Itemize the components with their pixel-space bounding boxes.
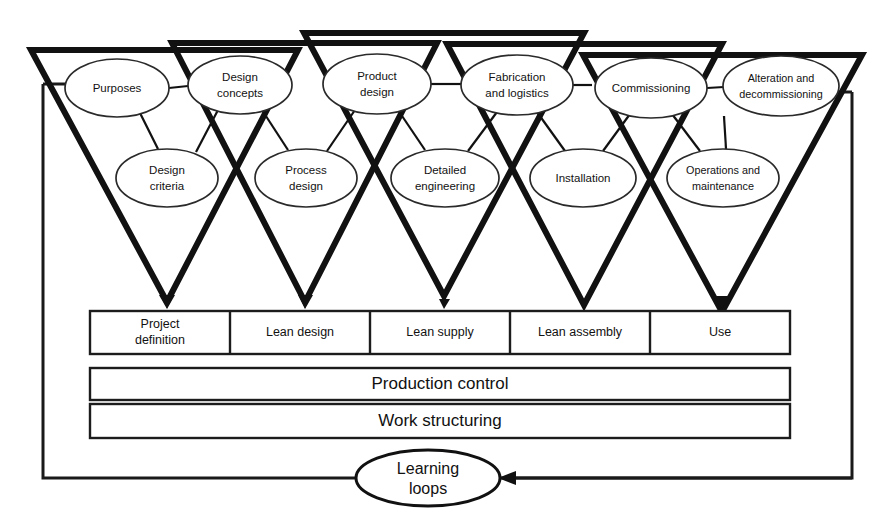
band-production-control[interactable]: Production control [90, 368, 790, 400]
connector-product-design-detailed-engineering [398, 110, 425, 150]
node-purposes[interactable]: Purposes [65, 59, 169, 117]
connector-commissioning-alteration [707, 87, 724, 88]
apex-arrow-lean-design [298, 295, 313, 309]
node-operations-maintenance-label-2: maintenance [692, 180, 754, 192]
node-product-design-label-1: Product [357, 70, 397, 82]
apex-arrow-lean-assembly [579, 301, 589, 309]
learning-loops-label-1: Learning [397, 460, 459, 477]
node-operations-maintenance-label-1: Operations and [686, 164, 760, 176]
node-alteration-decommissioning-shape[interactable] [723, 56, 839, 116]
diagram-canvas: Purposes Design concepts Product design … [0, 0, 894, 526]
learning-loops-node[interactable]: Learning loops [356, 450, 500, 506]
band-work-structuring[interactable]: Work structuring [90, 404, 790, 438]
node-process-design-label-2: design [289, 180, 323, 192]
phase-lean-assembly-label: Lean assembly [538, 325, 623, 339]
node-purposes-label: Purposes [93, 82, 142, 94]
feedback-arrow [498, 471, 852, 485]
band-work-structuring-label: Work structuring [378, 411, 501, 430]
node-installation[interactable]: Installation [530, 149, 636, 207]
phase-project-definition-label-2: definition [135, 333, 185, 347]
node-operations-maintenance-shape[interactable] [667, 149, 779, 207]
node-fabrication-logistics-label-2: and logistics [485, 87, 549, 99]
node-product-design-label-2: design [360, 86, 394, 98]
node-product-design-shape[interactable] [323, 54, 431, 114]
node-fabrication-logistics-label-1: Fabrication [489, 71, 546, 83]
connector-purposes-design-criteria [140, 113, 158, 149]
node-design-criteria[interactable]: Design criteria [116, 149, 218, 207]
apex-arrow-lean-supply [439, 299, 450, 309]
node-alteration-decommissioning[interactable]: Alteration and decommissioning [723, 56, 839, 116]
node-design-criteria-shape[interactable] [116, 149, 218, 207]
phase-bar: Project definition Lean design Lean supp… [90, 311, 790, 354]
node-design-criteria-label-1: Design [149, 164, 185, 176]
connector-fabrication-installation [537, 112, 565, 151]
node-process-design[interactable]: Process design [255, 149, 357, 207]
lean-project-delivery-diagram: Purposes Design concepts Product design … [0, 0, 894, 526]
phase-cell-use[interactable]: Use [709, 325, 731, 339]
phase-cell-lean-supply[interactable]: Lean supply [406, 325, 474, 339]
second-row-nodes: Design criteria Process design Detailed … [116, 149, 779, 207]
node-product-design[interactable]: Product design [323, 54, 431, 114]
learning-loops-label-2: loops [409, 480, 447, 497]
phase-project-definition-label-1: Project [141, 317, 180, 331]
node-detailed-engineering[interactable]: Detailed engineering [391, 149, 499, 207]
node-design-concepts-label-2: concepts [217, 87, 263, 99]
phase-use-label: Use [709, 325, 731, 339]
band-production-control-label: Production control [371, 374, 508, 393]
connector-alteration-operations [724, 116, 726, 149]
phase-lean-supply-label: Lean supply [406, 325, 474, 339]
connector-purposes-design-concepts [169, 86, 188, 88]
phase-cell-lean-assembly[interactable]: Lean assembly [538, 325, 623, 339]
node-design-criteria-label-2: criteria [150, 180, 185, 192]
node-fabrication-logistics[interactable]: Fabrication and logistics [461, 55, 573, 115]
apex-arrow-project-definition [159, 295, 175, 309]
node-process-design-shape[interactable] [255, 149, 357, 207]
node-alteration-decommissioning-label-2: decommissioning [739, 88, 822, 100]
node-fabrication-logistics-shape[interactable] [461, 55, 573, 115]
phase-cell-lean-design[interactable]: Lean design [266, 325, 334, 339]
connector-product-design-process-design [327, 110, 355, 151]
node-commissioning-label: Commissioning [612, 82, 691, 94]
connector-design-concepts-process-design [262, 110, 288, 150]
phase-lean-design-label: Lean design [266, 325, 334, 339]
node-design-concepts-label-1: Design [222, 71, 258, 83]
node-operations-maintenance[interactable]: Operations and maintenance [667, 149, 779, 207]
node-detailed-engineering-label-1: Detailed [424, 164, 466, 176]
node-design-concepts-shape[interactable] [188, 56, 292, 114]
node-detailed-engineering-shape[interactable] [391, 149, 499, 207]
node-installation-label: Installation [556, 172, 611, 184]
learning-loops-shape[interactable] [356, 450, 500, 506]
node-alteration-decommissioning-label-1: Alteration and [748, 72, 815, 84]
node-process-design-label-1: Process [285, 164, 327, 176]
node-commissioning[interactable]: Commissioning [595, 58, 707, 118]
node-detailed-engineering-label-2: engineering [415, 180, 475, 192]
node-design-concepts[interactable]: Design concepts [188, 56, 292, 114]
